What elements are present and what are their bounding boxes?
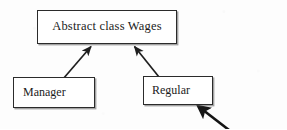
class-box-manager-label: Manager (14, 85, 94, 100)
annotation-arrow-to-regular (199, 107, 230, 130)
edge-regular-to-wages (135, 47, 160, 78)
diagram-canvas: Abstract class Wages Manager Regular (0, 0, 287, 129)
class-box-regular-label: Regular (144, 83, 212, 98)
class-box-regular[interactable]: Regular (143, 76, 213, 105)
class-box-manager[interactable]: Manager (13, 77, 95, 108)
class-box-wages-label: Abstract class Wages (38, 19, 176, 35)
edge-manager-to-wages (63, 47, 91, 80)
class-box-wages[interactable]: Abstract class Wages (37, 10, 177, 44)
